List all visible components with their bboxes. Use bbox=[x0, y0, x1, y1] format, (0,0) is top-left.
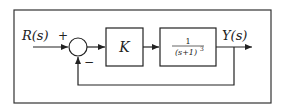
plant-numerator: 1 bbox=[185, 37, 190, 46]
block-diagram: R(s) + − K 1 (s+1) 3 Y(s) bbox=[0, 0, 287, 109]
plus-sign: + bbox=[58, 29, 68, 43]
plant-denominator: (s+1) bbox=[175, 48, 197, 57]
controller-label: K bbox=[118, 39, 131, 55]
minus-sign: − bbox=[84, 55, 94, 69]
plant-exponent: 3 bbox=[200, 45, 204, 52]
plant-block bbox=[160, 28, 216, 66]
output-label: Y(s) bbox=[222, 28, 247, 43]
input-label: R(s) bbox=[21, 28, 49, 43]
summing-junction bbox=[69, 38, 87, 56]
